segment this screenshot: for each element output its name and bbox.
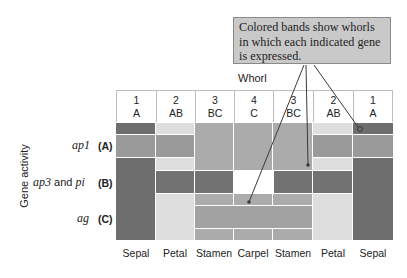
callout-leader-lines [0, 0, 407, 278]
